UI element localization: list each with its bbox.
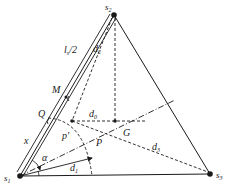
label-alpha: α <box>42 152 48 163</box>
edge-s1-s3 <box>20 174 210 176</box>
label-s2: s2 <box>105 2 112 13</box>
point-G <box>113 119 117 123</box>
label-d0: d0 <box>89 108 97 120</box>
label-d3: d3 <box>152 141 160 153</box>
vertex-s2 <box>111 12 117 18</box>
vertex-s1 <box>17 173 23 179</box>
triangle-diagram: s1 s2 s3 ls/2 M Q x p' P G α d2 d0 d1 d3 <box>0 0 229 189</box>
point-M <box>65 96 68 99</box>
label-Q: Q <box>38 108 46 119</box>
label-x: x <box>23 135 29 146</box>
angle-alpha-arc <box>32 160 40 170</box>
point-p-prime <box>70 119 74 123</box>
arrow-d1 <box>20 158 92 176</box>
d3-line <box>72 121 208 172</box>
label-P: P <box>95 137 102 148</box>
label-half-l: ls/2 <box>64 44 77 56</box>
label-M: M <box>51 84 61 95</box>
label-G: G <box>123 127 130 138</box>
label-s1: s1 <box>4 173 11 184</box>
label-s3: s3 <box>216 170 223 181</box>
label-p-prime: p' <box>61 130 70 141</box>
vertex-s3 <box>207 171 213 177</box>
length-brace <box>17 14 116 176</box>
dashed-lines <box>48 18 208 176</box>
d2-line <box>72 18 112 121</box>
edge-s1-s2 <box>20 15 114 176</box>
edge-s2-s3 <box>114 15 210 174</box>
label-d1: d1 <box>70 162 78 174</box>
